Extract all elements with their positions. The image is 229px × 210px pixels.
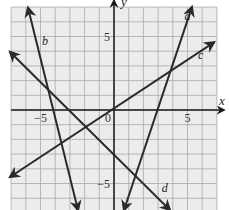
line-label-a: a: [185, 9, 191, 23]
coordinate-plane: −5055−5xyabcd: [0, 0, 229, 210]
y-tick-label: 5: [104, 30, 110, 44]
line-label-d: d: [162, 181, 169, 195]
line-label-c: c: [198, 48, 204, 62]
x-tick-label: 5: [185, 111, 191, 125]
line-label-b: b: [42, 34, 48, 48]
x-tick-label: 0: [105, 111, 111, 125]
x-axis-label: x: [218, 93, 225, 108]
y-axis-label: y: [119, 0, 127, 9]
y-tick-label: −5: [97, 177, 110, 191]
x-tick-label: −5: [34, 111, 47, 125]
